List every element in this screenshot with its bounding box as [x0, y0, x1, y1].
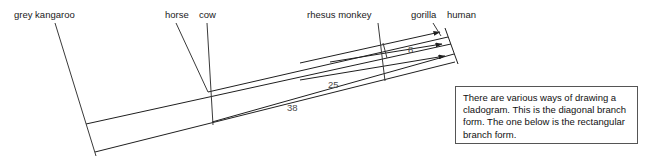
branch-value-8: 8	[408, 44, 413, 55]
explanatory-note-text: There are various ways of drawing a clad…	[463, 92, 630, 141]
measure-tick-left	[383, 43, 387, 58]
taxon-label-human: human	[447, 9, 476, 20]
taxon-label-grey-kangaroo: grey kangaroo	[14, 9, 75, 20]
leader-line-gorilla	[433, 23, 441, 36]
branch-value-25: 25	[328, 79, 339, 90]
human-terminal-line	[445, 28, 458, 64]
leader-line-horse	[176, 23, 208, 92]
leader-line-cow	[207, 23, 213, 125]
taxon-label-cow: cow	[199, 9, 216, 20]
clade-branch-group	[86, 37, 455, 152]
branch-value-38: 38	[287, 102, 298, 113]
leader-line-grey-kangaroo	[55, 23, 96, 156]
clade-branch-outer-lower	[95, 62, 455, 152]
clade-branch-outer-upper	[86, 44, 451, 124]
cladogram-figure: grey kangaroo horse cow rhesus monkey go…	[0, 0, 650, 161]
taxon-label-rhesus-monkey: rhesus monkey	[307, 9, 372, 20]
explanatory-note-box: There are various ways of drawing a clad…	[455, 86, 638, 144]
taxon-label-gorilla: gorilla	[411, 9, 437, 20]
taxon-label-horse: horse	[165, 9, 189, 20]
leader-line-group	[55, 23, 441, 156]
measure-tick-group	[383, 43, 387, 58]
